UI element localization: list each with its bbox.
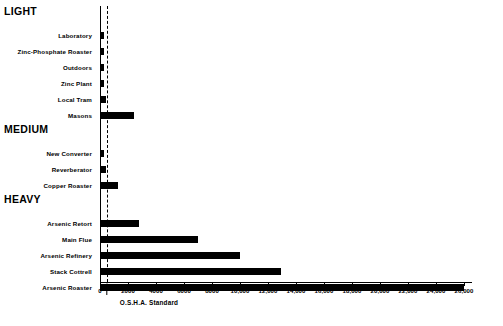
x-tick bbox=[268, 282, 269, 286]
bar bbox=[100, 96, 106, 103]
bar bbox=[100, 220, 139, 227]
x-tick bbox=[436, 282, 437, 286]
x-tick bbox=[408, 282, 409, 286]
category-label: Copper Roaster bbox=[43, 182, 92, 189]
x-tick-label: 18,000 bbox=[343, 288, 362, 294]
x-tick bbox=[240, 282, 241, 286]
category-label: Arsenic Roaster bbox=[42, 284, 92, 291]
x-tick-label: 16,000 bbox=[315, 288, 334, 294]
group-header-light: LIGHT bbox=[4, 6, 37, 16]
x-tick-label: 24,000 bbox=[427, 288, 446, 294]
x-tick-label: 6000 bbox=[177, 288, 191, 294]
x-tick-label: 2000 bbox=[121, 288, 135, 294]
plot-area bbox=[96, 0, 503, 282]
bar bbox=[100, 64, 104, 71]
bar bbox=[100, 252, 240, 259]
bar bbox=[100, 32, 104, 39]
x-tick bbox=[380, 282, 381, 286]
x-axis: 0200040006000800010,00012,00014,00016,00… bbox=[96, 282, 503, 326]
bar bbox=[100, 182, 118, 189]
category-label: Laboratory bbox=[58, 32, 92, 39]
x-tick-label: 14,000 bbox=[287, 288, 306, 294]
x-tick bbox=[352, 282, 353, 286]
x-tick-label: 4000 bbox=[149, 288, 163, 294]
x-tick bbox=[296, 282, 297, 286]
x-tick bbox=[464, 282, 465, 286]
category-label: Zinc Plant bbox=[61, 80, 92, 87]
bar bbox=[100, 112, 134, 119]
x-tick-label: 10,000 bbox=[231, 288, 250, 294]
x-tick-label: 26,000 bbox=[455, 288, 474, 294]
x-tick bbox=[100, 282, 101, 286]
x-tick bbox=[156, 282, 157, 286]
category-label: Zinc-Phosphate Roaster bbox=[18, 48, 92, 55]
x-tick bbox=[212, 282, 213, 286]
osha-standard-caption: O.S.H.A. Standard bbox=[120, 299, 178, 306]
category-label: Arsenic Retort bbox=[47, 220, 92, 227]
category-label: Masons bbox=[68, 112, 92, 119]
bar bbox=[100, 48, 104, 55]
osha-standard-line bbox=[107, 6, 108, 282]
group-header-heavy: HEAVY bbox=[4, 194, 41, 204]
category-label: Local Tram bbox=[58, 96, 92, 103]
category-labels-column: LIGHTLaboratoryZinc-Phosphate RoasterOut… bbox=[0, 0, 96, 282]
group-header-medium: MEDIUM bbox=[4, 124, 48, 134]
category-label: Arsenic Refinery bbox=[40, 252, 92, 259]
bar bbox=[100, 80, 104, 87]
category-label: Stack Cottrell bbox=[50, 268, 92, 275]
bar bbox=[100, 150, 104, 157]
bar bbox=[100, 268, 281, 275]
category-label: Reverberator bbox=[52, 166, 92, 173]
x-tick bbox=[324, 282, 325, 286]
osha-arrow-stem bbox=[106, 289, 107, 295]
category-label: New Converter bbox=[46, 150, 92, 157]
x-tick bbox=[184, 282, 185, 286]
category-label: Main Flue bbox=[62, 236, 92, 243]
category-label: Outdoors bbox=[63, 64, 92, 71]
x-tick-label: 22,000 bbox=[399, 288, 418, 294]
bar bbox=[100, 236, 198, 243]
x-tick bbox=[128, 282, 129, 286]
x-tick-label: 0 bbox=[98, 288, 101, 294]
x-tick-label: 20,000 bbox=[371, 288, 390, 294]
x-tick-label: 8000 bbox=[205, 288, 219, 294]
bar-chart: LIGHTLaboratoryZinc-Phosphate RoasterOut… bbox=[0, 0, 503, 326]
x-tick-label: 12,000 bbox=[259, 288, 278, 294]
bar bbox=[100, 166, 106, 173]
